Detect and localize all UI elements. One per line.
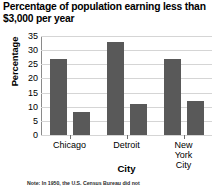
bar	[107, 42, 124, 135]
bar-group	[50, 36, 90, 135]
y-axis-tick-label: 30	[28, 46, 38, 55]
bar	[50, 59, 67, 135]
bar	[73, 112, 90, 135]
plot-area: 05101520253035	[41, 36, 212, 135]
bar	[130, 104, 147, 135]
x-axis-tick-label: Detroit	[113, 141, 140, 151]
x-axis-tick	[127, 135, 128, 139]
chart-figure: Percentage of population earning less th…	[0, 0, 215, 190]
y-axis-label: Percentage	[9, 17, 20, 107]
bar	[187, 101, 204, 135]
x-axis-tick	[184, 135, 185, 139]
y-axis-tick-label: 0	[33, 131, 38, 140]
y-axis-tick-label: 15	[28, 88, 38, 97]
x-axis-tick-label: Chicago	[53, 141, 86, 151]
bar-group	[107, 36, 147, 135]
x-axis-tick-label: New York City	[168, 141, 200, 170]
y-axis-tick-label: 35	[28, 32, 38, 41]
chart-title: Percentage of population earning less th…	[3, 1, 212, 25]
x-axis-tick	[70, 135, 71, 139]
bar	[164, 59, 181, 135]
chart-footnote: Note: In 1950, the U.S. Census Bureau di…	[27, 180, 213, 186]
y-axis-tick-label: 10	[28, 102, 38, 111]
y-axis-tick-label: 25	[28, 60, 38, 69]
y-axis-tick-label: 20	[28, 74, 38, 83]
bar-group	[164, 36, 204, 135]
y-axis-tick-label: 5	[33, 116, 38, 125]
